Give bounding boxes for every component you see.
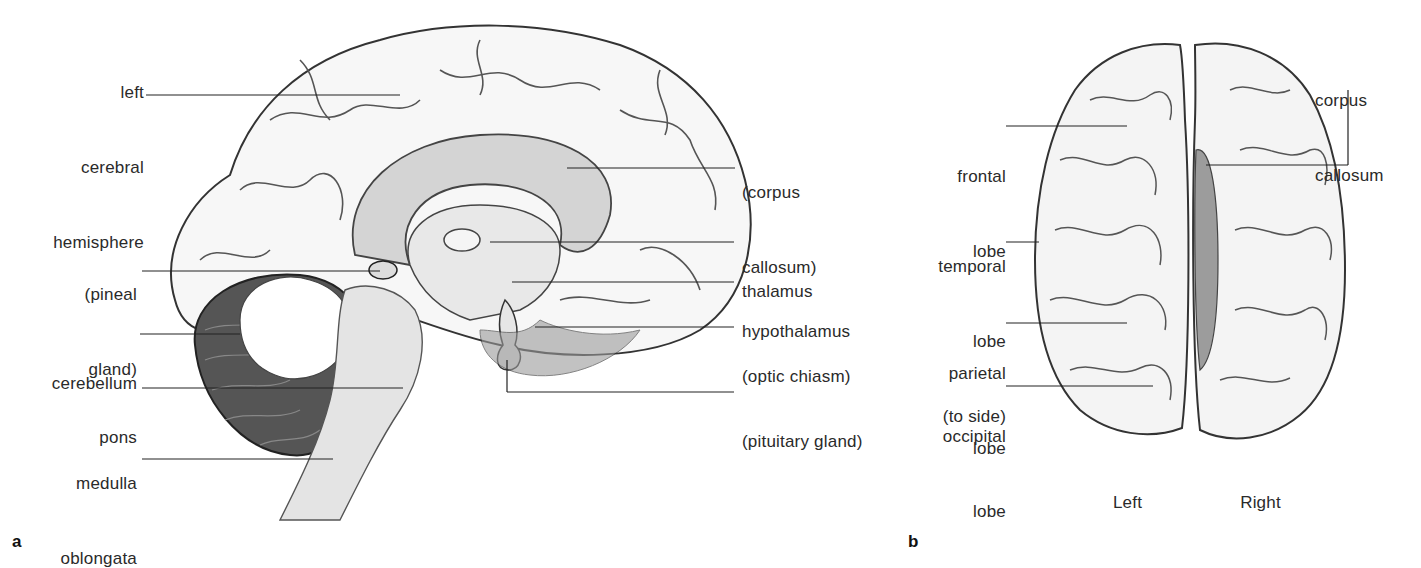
panel-letter-b: b: [908, 532, 918, 552]
label-right-cerebral-hemisphere-b: Right Cerebral Hemisphere: [1203, 440, 1318, 568]
label-left-cerebral-hemisphere-b: Left Cerebral Hemisphere: [1070, 440, 1185, 568]
label-corpus-callosum-top: corpus callosum: [1315, 38, 1384, 238]
panel-b-top-view-brain: frontal lobe temporal lobe (to side) par…: [900, 0, 1421, 568]
panel-a-sagittal-brain: left cerebral hemisphere (pineal gland) …: [0, 0, 900, 568]
label-pituitary-gland: (pituitary gland): [742, 379, 863, 504]
left-hemisphere-shape: [1035, 44, 1188, 434]
arbor-vitae-shape: [240, 277, 351, 379]
pineal-shape: [369, 261, 397, 279]
panel-letter-a: a: [12, 532, 21, 552]
thalamus-oval: [444, 229, 480, 251]
label-medulla-oblongata: medulla oblongata: [61, 421, 137, 568]
label-occipital-lobe: occipital lobe: [943, 374, 1006, 568]
